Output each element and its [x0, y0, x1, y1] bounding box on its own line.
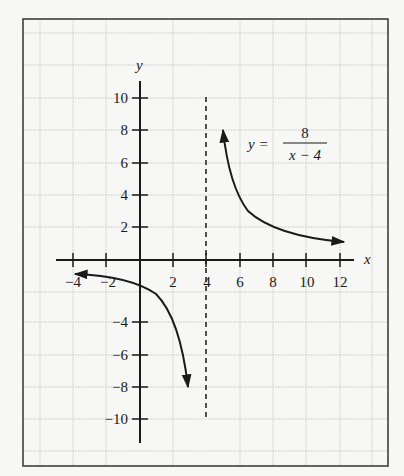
svg-text:10: 10 [300, 274, 315, 290]
svg-text:−4: −4 [112, 314, 128, 330]
svg-text:2: 2 [169, 274, 177, 290]
svg-text:x − 4: x − 4 [288, 147, 321, 163]
svg-text:10: 10 [113, 90, 128, 106]
svg-text:6: 6 [236, 274, 244, 290]
svg-text:y =: y = [246, 136, 269, 152]
axes [56, 81, 354, 443]
graph: −4 −2 2 4 6 8 10 12 10 8 6 4 2 −4 −6 −8 … [0, 0, 404, 476]
x-axis-label: x [363, 251, 371, 267]
svg-text:6: 6 [121, 155, 129, 171]
svg-text:4: 4 [121, 187, 129, 203]
svg-text:8: 8 [269, 274, 277, 290]
svg-text:−6: −6 [112, 347, 128, 363]
svg-text:−8: −8 [112, 379, 128, 395]
svg-text:8: 8 [121, 122, 129, 138]
svg-text:2: 2 [121, 219, 129, 235]
svg-text:8: 8 [301, 125, 309, 141]
svg-text:12: 12 [333, 274, 348, 290]
left-branch-curve [75, 274, 188, 387]
svg-text:−4: −4 [65, 274, 81, 290]
svg-text:4: 4 [203, 274, 211, 290]
y-tick-labels: 10 8 6 4 2 −4 −6 −8 −10 [105, 90, 129, 427]
y-axis-label: y [134, 57, 143, 73]
right-branch-curve [223, 130, 344, 242]
svg-text:−10: −10 [105, 411, 128, 427]
equation-label: y = 8 x − 4 [246, 125, 327, 163]
